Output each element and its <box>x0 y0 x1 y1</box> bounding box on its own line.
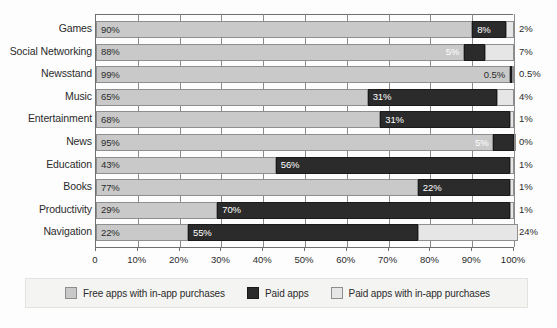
category-label: Productivity <box>0 204 92 215</box>
bar-row: 65%31% <box>96 89 514 106</box>
legend-item: Paid apps <box>247 287 309 299</box>
bar-segment-paid: 22% <box>418 179 510 196</box>
category-label: Navigation <box>0 226 92 237</box>
bar-row: 99%0.5% <box>96 66 514 83</box>
x-tick <box>471 247 472 251</box>
x-tick <box>95 247 96 251</box>
bar-segment-paid: 70% <box>217 202 510 219</box>
x-tick <box>137 247 138 251</box>
chart-figure: GamesSocial NetworkingNewsstandMusicEnte… <box>0 0 557 328</box>
plot-area: 90%8%88%5%99%0.5%65%31%68%31%95%5%43%56%… <box>95 14 513 247</box>
row-right-value: 0.5% <box>519 69 541 79</box>
chart-legend: Free apps with in-app purchasesPaid apps… <box>25 278 528 308</box>
bar-segment-paid-iap <box>514 134 516 151</box>
bar-segment-paid-iap <box>510 157 514 174</box>
gridline <box>514 14 515 247</box>
bar-row: 29%70% <box>96 202 514 219</box>
bar-segment-paid-iap <box>510 111 514 128</box>
segment-value-label: 8% <box>477 25 491 35</box>
legend-label: Paid apps with in-app purchases <box>349 288 490 299</box>
category-label: Education <box>0 159 92 170</box>
category-label: Entertainment <box>0 113 92 124</box>
x-tick <box>346 247 347 251</box>
segment-value-label: 0.5% <box>484 70 505 80</box>
row-right-value: 7% <box>519 47 533 57</box>
row-right-value: 24% <box>519 227 538 237</box>
segment-value-label: 65% <box>101 92 120 102</box>
category-label: Newsstand <box>0 68 92 79</box>
bar-row: 90%8% <box>96 21 514 38</box>
bar-row: 95%5% <box>96 134 514 151</box>
row-right-value: 1% <box>519 182 533 192</box>
segment-value-label: 31% <box>385 115 404 125</box>
row-right-value: 0% <box>519 137 533 147</box>
bar-segment-paid-iap <box>497 89 514 106</box>
segment-value-label: 5% <box>446 47 460 57</box>
bar-segment-paid: 31% <box>380 111 510 128</box>
row-right-value: 1% <box>519 205 533 215</box>
bar-segment-paid-iap <box>510 179 514 196</box>
row-right-value: 2% <box>519 24 533 34</box>
row-right-value: 1% <box>519 160 533 170</box>
bar-segment-free: 77% <box>96 179 418 196</box>
segment-value-label: 22% <box>423 183 442 193</box>
segment-value-label: 88% <box>101 47 120 57</box>
category-label: News <box>0 136 92 147</box>
segment-value-label: 70% <box>222 205 241 215</box>
bar-segment-paid <box>464 44 485 61</box>
bar-segment-paid: 31% <box>368 89 498 106</box>
x-tick-label: 90% <box>462 254 481 265</box>
bar-segment-free: 95% <box>96 134 493 151</box>
bar-segment-free: 99% <box>96 66 510 83</box>
x-tick-label: 0 <box>92 254 97 265</box>
legend-items: Free apps with in-app purchasesPaid apps… <box>26 279 529 307</box>
swatch-free-icon <box>65 287 77 299</box>
segment-value-label: 90% <box>101 25 120 35</box>
bar-segment-paid: 56% <box>276 157 510 174</box>
bar-segment-paid-iap <box>506 21 514 38</box>
segment-value-label: 31% <box>373 92 392 102</box>
category-label: Books <box>0 181 92 192</box>
bar-segment-free: 68% <box>96 111 380 128</box>
segment-value-label: 55% <box>193 228 212 238</box>
x-tick-label: 80% <box>420 254 439 265</box>
bar-segment-paid-iap <box>510 202 514 219</box>
x-tick <box>429 247 430 251</box>
bar-segment-paid: 8% <box>472 21 505 38</box>
bar-segment-free: 90% <box>96 21 472 38</box>
bar-segment-free: 22% <box>96 224 188 241</box>
bar-row: 77%22% <box>96 179 514 196</box>
segment-value-label: 99% <box>101 70 120 80</box>
x-tick <box>304 247 305 251</box>
category-label: Games <box>0 23 92 34</box>
x-tick <box>262 247 263 251</box>
x-tick-label: 50% <box>294 254 313 265</box>
bar-segment-paid-iap <box>485 44 514 61</box>
segment-value-label: 22% <box>101 228 120 238</box>
bar-segment-paid <box>493 134 514 151</box>
bar-row: 43%56% <box>96 157 514 174</box>
segment-value-label: 56% <box>281 160 300 170</box>
x-tick-label: 100% <box>501 254 525 265</box>
x-tick <box>179 247 180 251</box>
legend-label: Paid apps <box>265 288 309 299</box>
bar-row: 88%5% <box>96 44 514 61</box>
bar-segment-free: 88% <box>96 44 464 61</box>
x-tick <box>513 247 514 251</box>
x-tick-label: 30% <box>211 254 230 265</box>
bar-segment-paid-iap <box>418 224 518 241</box>
bar-row: 22%55% <box>96 224 514 241</box>
segment-value-label: 77% <box>101 183 120 193</box>
legend-label: Free apps with in-app purchases <box>83 288 225 299</box>
clipped-title-text <box>8 0 548 7</box>
swatch-paid-iap-icon <box>331 287 343 299</box>
bar-row: 68%31% <box>96 111 514 128</box>
legend-item: Free apps with in-app purchases <box>65 287 225 299</box>
row-right-value: 1% <box>519 114 533 124</box>
category-axis-labels: GamesSocial NetworkingNewsstandMusicEnte… <box>0 11 92 247</box>
bar-segment-paid-iap <box>512 66 514 83</box>
category-label: Social Networking <box>0 46 92 57</box>
bar-segment-free: 65% <box>96 89 368 106</box>
x-tick-label: 60% <box>336 254 355 265</box>
x-tick <box>220 247 221 251</box>
